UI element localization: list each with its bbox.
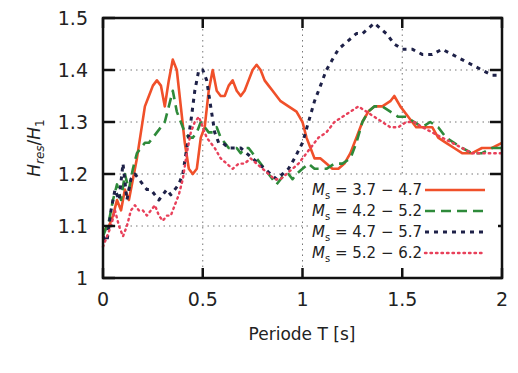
y-tick-label: 1.5: [58, 7, 88, 29]
y-axis-title-main2: H: [24, 127, 44, 140]
y-tick-label: 1.4: [58, 59, 88, 81]
y-tick-label: 1.3: [58, 111, 88, 133]
y-tick-label: 1.1: [58, 215, 88, 237]
y-tick-labels: 11.11.21.31.41.5: [58, 7, 88, 289]
line-chart: 00.511.52 11.11.21.31.41.5 Periode T [s]…: [0, 0, 518, 373]
y-axis-title-sub2: 1: [33, 119, 47, 127]
x-tick-labels: 00.511.52: [97, 288, 508, 310]
x-tick-label: 1: [296, 288, 308, 310]
legend: Ms = 3.7 − 4.7Ms = 4.2 − 5.2Ms = 4.7 − 5…: [312, 176, 498, 268]
x-tick-label: 1.5: [387, 288, 417, 310]
y-axis-title-sub1: res: [33, 145, 47, 164]
svg-text:Hres/H1: Hres/H1: [24, 119, 47, 177]
x-axis-title: Periode T [s]: [249, 324, 356, 344]
y-tick-label: 1.2: [58, 163, 88, 185]
x-tick-label: 0.5: [188, 288, 218, 310]
x-tick-label: 2: [496, 288, 508, 310]
x-tick-label: 0: [97, 288, 109, 310]
y-tick-label: 1: [76, 267, 88, 289]
y-axis-title-main: H: [24, 164, 44, 177]
y-axis-title: Hres/H1: [24, 119, 47, 177]
